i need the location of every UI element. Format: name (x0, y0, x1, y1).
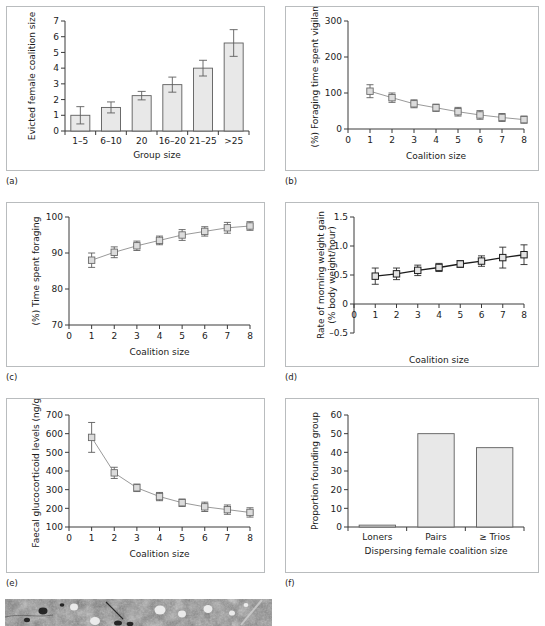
x-tick-label: 2 (394, 310, 400, 320)
x-axis-title: Coalition size (406, 151, 466, 161)
data-point-marker (521, 116, 527, 122)
data-point-marker (224, 506, 230, 512)
x-tick-label: 6 (477, 135, 483, 145)
y-tick-label: 60 (331, 410, 343, 420)
x-axis-title: Coalition size (409, 355, 469, 365)
chart-c: 708090100012345678Coalition size(%) Time… (7, 203, 264, 366)
x-tick-label: >25 (224, 136, 243, 146)
data-point-marker (477, 112, 483, 118)
data-point-marker (499, 114, 505, 120)
chart-a: 012345671–56–102016–2021–25>25Group size… (7, 7, 264, 170)
bar (418, 434, 454, 527)
y-tick-label: 100 (46, 212, 63, 222)
chart-f-plot: 0102030405060LonersPairs≥ TriosDispersin… (310, 410, 524, 556)
x-tick-label: 8 (521, 135, 527, 145)
y-tick-label: 500 (46, 448, 63, 458)
bar (359, 525, 395, 527)
x-tick-label: 2 (111, 331, 117, 341)
x-tick-label: 1 (89, 331, 95, 341)
panel-e: 100200300400500600700012345678Coalition … (6, 398, 265, 573)
data-point-marker (389, 94, 395, 100)
y-tick-label: –0.5 (329, 328, 348, 338)
y-tick-label: 0 (336, 124, 342, 134)
panel-b: 0100200300012345678Coalition size(%) For… (285, 6, 539, 171)
x-tick-label: 1 (367, 135, 373, 145)
x-tick-label: 4 (157, 331, 163, 341)
panel-a: 012345671–56–102016–2021–25>25Group size… (6, 6, 265, 171)
x-axis-title: Dispersing female coalition size (365, 546, 508, 556)
y-tick-label: 3 (53, 79, 59, 89)
chart-c-plot: 708090100012345678Coalition size(%) Time… (31, 212, 254, 357)
x-tick-label: 8 (247, 533, 253, 543)
y-axis-title: (%) Time spent foraging (31, 217, 41, 326)
x-tick-label: 5 (179, 533, 185, 543)
x-axis-title: Group size (133, 150, 181, 160)
y-axis-title: Evicted female coalition size (27, 11, 37, 140)
x-tick-label: 6 (202, 331, 208, 341)
y-tick-label: 50 (331, 429, 343, 439)
x-tick-label: ≥ Trios (479, 532, 510, 542)
y-tick-label: 0 (336, 522, 342, 532)
x-tick-label: 3 (134, 533, 140, 543)
y-tick-label: 40 (331, 448, 343, 458)
x-tick-label: 1–5 (72, 136, 88, 146)
chart-a-plot: 012345671–56–102016–2021–25>25Group size… (27, 11, 249, 160)
y-tick-label: 100 (46, 522, 63, 532)
x-tick-label: 8 (521, 310, 527, 320)
data-point-marker (179, 232, 185, 238)
data-point-marker (411, 101, 417, 107)
x-tick-label: Pairs (425, 532, 447, 542)
x-tick-label: 7 (499, 135, 505, 145)
x-tick-label: 5 (179, 331, 185, 341)
data-point-marker (111, 249, 117, 255)
y-tick-label: 100 (325, 88, 342, 98)
data-point-marker (134, 243, 140, 249)
y-tick-label: 90 (52, 248, 64, 258)
x-tick-label: 2 (389, 135, 395, 145)
data-point-marker (179, 500, 185, 506)
y-tick-label: 300 (46, 485, 63, 495)
y-tick-label: 6 (53, 32, 59, 42)
panel-label-a: (a) (6, 176, 18, 186)
data-point-marker (521, 252, 527, 258)
panel-c: 708090100012345678Coalition size(%) Time… (6, 202, 265, 367)
y-tick-label: 5 (53, 48, 59, 58)
x-tick-label: 21–25 (189, 136, 216, 146)
bar (193, 68, 212, 131)
y-tick-label: 0 (342, 299, 348, 309)
y-axis-title: (%) Foraging time spent vigilant (310, 7, 320, 148)
chart-e-plot: 100200300400500600700012345678Coalition … (31, 399, 254, 559)
y-tick-label: 600 (46, 429, 63, 439)
panel-label-b: (b) (285, 176, 297, 186)
y-tick-label: 10 (331, 504, 343, 514)
y-tick-label: 2 (53, 95, 59, 105)
chart-f: 0102030405060LonersPairs≥ TriosDispersin… (286, 399, 538, 572)
x-axis-title: Coalition size (130, 347, 190, 357)
y-tick-label: 300 (325, 16, 342, 26)
data-point-marker (247, 509, 253, 515)
x-tick-label: 4 (157, 533, 163, 543)
y-axis-title: Faecal glucocorticoid levels (ng/g) (31, 399, 41, 548)
y-tick-label: 4 (53, 63, 59, 73)
x-tick-label: 4 (433, 135, 439, 145)
y-axis-title: Proportion founding group (310, 412, 320, 530)
x-tick-label: 7 (500, 310, 506, 320)
x-tick-label: 6 (202, 533, 208, 543)
panel-label-c: (c) (6, 372, 17, 382)
x-tick-label: 7 (225, 533, 231, 543)
data-point-marker (415, 267, 421, 273)
x-tick-label: 0 (66, 533, 72, 543)
panel-label-e: (e) (6, 578, 18, 588)
panel-f: 0102030405060LonersPairs≥ TriosDispersin… (285, 398, 539, 573)
data-point-marker (111, 470, 117, 476)
bar (476, 448, 512, 527)
x-tick-label: 1 (89, 533, 95, 543)
data-point-marker (156, 237, 162, 243)
panel-d: –0.500.51.01.5012345678Coalition sizeRat… (285, 202, 539, 367)
y-tick-label: 1.5 (334, 212, 348, 222)
x-tick-label: 0 (351, 310, 357, 320)
y-tick-label: 80 (52, 284, 64, 294)
x-tick-label: 4 (436, 310, 442, 320)
data-point-marker (202, 228, 208, 234)
bar (132, 96, 151, 131)
